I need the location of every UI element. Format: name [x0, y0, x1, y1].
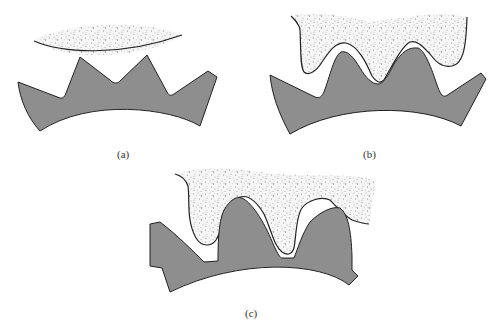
panel-b-label: (b) [363, 148, 376, 160]
panel-a-label: (a) [117, 148, 129, 160]
grinding-wheel-b [291, 14, 467, 82]
panel-c-label: (c) [245, 307, 257, 319]
gear-c [150, 198, 358, 293]
panel-a [18, 25, 217, 131]
panel-c [150, 169, 376, 293]
gear-a [18, 55, 217, 131]
panel-b [270, 14, 486, 134]
figure-canvas [0, 0, 498, 327]
